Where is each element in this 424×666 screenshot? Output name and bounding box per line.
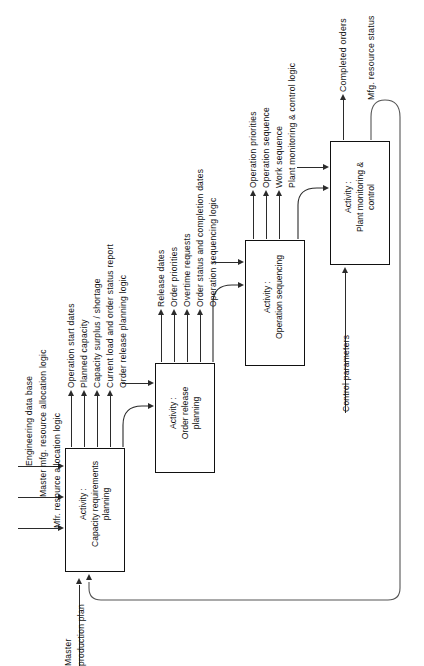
feedback-loop-arrowhead xyxy=(86,574,92,580)
feedback-loop-mfg-resource-status xyxy=(0,0,424,666)
diagram-canvas: Activity : Capacity requirements plannin… xyxy=(0,0,424,666)
